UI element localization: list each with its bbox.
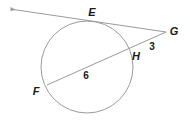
secant-line-segment [47,32,166,85]
point-label-h: H [132,51,140,62]
point-label-g: G [170,26,179,37]
geometry-canvas [0,0,190,124]
measure-label-fh: 6 [83,71,89,81]
geometry-figure: E G H F 3 6 [0,0,190,124]
measure-label-hg: 3 [149,42,155,52]
point-label-e: E [88,7,95,18]
point-label-f: F [33,86,40,97]
